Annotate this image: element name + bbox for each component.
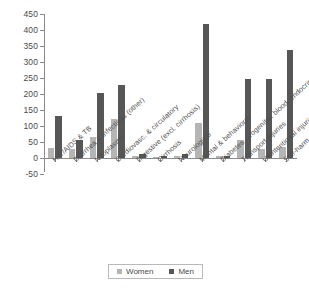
legend-item-men: Men — [169, 267, 194, 276]
legend-swatch-men-icon — [169, 269, 174, 274]
y-axis-tick-label: 250 — [24, 74, 38, 83]
y-axis-tick — [40, 126, 44, 127]
y-axis-tick-label: 450 — [24, 10, 38, 19]
y-axis-tick-label: 50 — [28, 138, 38, 147]
y-axis-tick — [40, 94, 44, 95]
y-axis-tick-label: 200 — [24, 90, 38, 99]
y-axis-tick — [40, 110, 44, 111]
y-axis-tick-label: 400 — [24, 26, 38, 35]
legend-label-men: Men — [178, 267, 194, 276]
y-axis-tick — [40, 62, 44, 63]
legend-swatch-women-icon — [117, 269, 122, 274]
bar-chart: 450400350300250200150100500-50 HIV/AIDS … — [0, 0, 309, 288]
legend-label-women: Women — [126, 267, 153, 276]
y-axis-line — [44, 14, 45, 172]
y-axis-tick-label: -50 — [25, 170, 38, 179]
y-axis-tick-label: 300 — [24, 58, 38, 67]
y-axis-tick-label: 0 — [33, 154, 38, 163]
y-axis-tick — [40, 14, 44, 15]
y-axis-tick — [40, 78, 44, 79]
y-axis-tick-label: 350 — [24, 42, 38, 51]
legend-item-women: Women — [117, 267, 153, 276]
y-axis-tick — [40, 30, 44, 31]
chart-legend: Women Men — [108, 264, 203, 279]
y-axis-tick — [40, 142, 44, 143]
y-axis-tick-label: 100 — [24, 122, 38, 131]
y-axis-tick — [40, 46, 44, 47]
y-axis-tick-label: 150 — [24, 106, 38, 115]
